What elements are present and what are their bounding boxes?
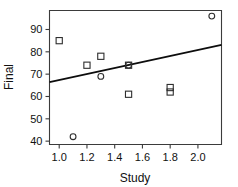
x-tick-label: 1.2	[79, 151, 94, 163]
y-tick-label: 40	[30, 135, 42, 147]
x-tick-label: 2.0	[190, 151, 205, 163]
x-tick-label: 1.6	[135, 151, 150, 163]
y-tick-label: 60	[30, 90, 42, 102]
y-tick-label: 50	[30, 113, 42, 125]
x-axis-label: Study	[120, 171, 151, 185]
y-tick-label: 90	[30, 23, 42, 35]
scatter-plot-figure: 405060708090 1.01.21.41.61.82.0 Study Fi…	[0, 0, 238, 187]
x-tick-label: 1.0	[52, 151, 67, 163]
y-tick-label: 70	[30, 68, 42, 80]
y-axis-label: Final	[2, 64, 16, 90]
x-tick-label: 1.4	[107, 151, 122, 163]
x-tick-label: 1.8	[163, 151, 178, 163]
plot-canvas: 405060708090 1.01.21.41.61.82.0 Study Fi…	[0, 0, 238, 187]
y-tick-label: 80	[30, 46, 42, 58]
